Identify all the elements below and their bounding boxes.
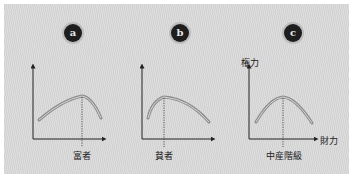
x-axis-label: 財力 [320, 134, 338, 147]
graph-c [249, 66, 316, 147]
x-marker-label-a: 富者 [73, 149, 91, 162]
graph-b [142, 66, 213, 147]
graph-a [33, 66, 104, 147]
diagram-card: a b c [4, 4, 349, 174]
x-marker-label-c: 中産階級 [266, 149, 302, 162]
y-axis-label: 権力 [241, 56, 259, 69]
x-marker-label-b: 貧者 [155, 149, 173, 162]
